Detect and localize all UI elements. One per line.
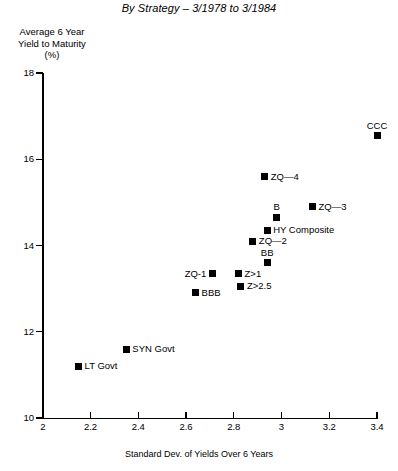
y-tick-label: 12 bbox=[6, 326, 34, 337]
data-point-marker bbox=[237, 283, 244, 290]
x-tick-label: 3.2 bbox=[314, 421, 344, 432]
x-tick-label: 3.4 bbox=[362, 421, 392, 432]
data-point-marker bbox=[209, 270, 216, 277]
data-point-label: LT Govt bbox=[85, 361, 118, 371]
y-tick-label: 14 bbox=[6, 240, 34, 251]
data-point-marker bbox=[75, 363, 82, 370]
x-tick-mark bbox=[329, 412, 330, 419]
x-tick-mark bbox=[185, 412, 186, 419]
data-point-label: ZQ-1 bbox=[185, 269, 207, 279]
x-tick-label: 2.4 bbox=[123, 421, 153, 432]
data-point-marker bbox=[264, 227, 271, 234]
y-tick-label: 16 bbox=[6, 153, 34, 164]
y-tick-mark bbox=[36, 159, 43, 160]
y-tick-mark bbox=[36, 245, 43, 246]
data-point-marker bbox=[374, 132, 381, 139]
x-tick-label: 2.6 bbox=[171, 421, 201, 432]
x-tick-mark bbox=[138, 412, 139, 419]
x-tick-mark bbox=[376, 412, 377, 419]
data-point-label: ZQ—2 bbox=[259, 236, 287, 246]
x-tick-label: 2.2 bbox=[76, 421, 106, 432]
data-point-label: CCC bbox=[367, 121, 388, 131]
x-tick-label: 2 bbox=[28, 421, 58, 432]
data-point-marker bbox=[123, 346, 130, 353]
data-point-marker bbox=[192, 289, 199, 296]
data-point-marker bbox=[261, 173, 268, 180]
data-point-marker bbox=[235, 270, 242, 277]
x-axis-line bbox=[42, 418, 377, 420]
data-point-label: ZQ—4 bbox=[271, 172, 299, 182]
x-axis-label: Standard Dev. of Yields Over 6 Years bbox=[0, 449, 398, 459]
chart-title: By Strategy – 3/1978 to 3/1984 bbox=[0, 2, 398, 14]
x-tick-label: 2.8 bbox=[219, 421, 249, 432]
x-tick-mark bbox=[90, 412, 91, 419]
data-point-marker bbox=[309, 203, 316, 210]
data-point-label: BBB bbox=[202, 288, 221, 298]
x-tick-label: 3 bbox=[267, 421, 297, 432]
x-tick-mark bbox=[281, 412, 282, 419]
x-tick-mark bbox=[233, 412, 234, 419]
x-tick-mark bbox=[42, 412, 43, 419]
y-axis-label-line-1: Average 6 Year bbox=[0, 26, 104, 38]
y-tick-mark bbox=[36, 331, 43, 332]
y-tick-mark bbox=[36, 72, 43, 73]
data-point-label: ZQ—3 bbox=[319, 202, 347, 212]
data-point-label: BB bbox=[261, 248, 274, 258]
data-point-label: SYN Govt bbox=[132, 344, 174, 354]
data-point-label: B bbox=[274, 202, 280, 212]
data-point-label: HY Composite bbox=[273, 225, 334, 235]
data-point-marker bbox=[273, 214, 280, 221]
y-axis-label: Average 6 Year Yield to Maturity (%) bbox=[0, 26, 104, 61]
y-tick-label: 18 bbox=[6, 67, 34, 78]
data-point-label: Z>1 bbox=[245, 269, 262, 279]
y-axis-label-line-3: (%) bbox=[0, 49, 104, 61]
data-point-marker bbox=[249, 238, 256, 245]
y-axis-label-line-2: Yield to Maturity bbox=[0, 38, 104, 50]
scatter-chart: By Strategy – 3/1978 to 3/1984 Average 6… bbox=[0, 0, 398, 471]
data-point-label: Z>2.5 bbox=[247, 281, 272, 291]
data-point-marker bbox=[264, 259, 271, 266]
